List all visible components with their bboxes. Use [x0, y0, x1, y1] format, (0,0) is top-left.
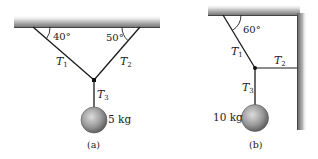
label-t1-b: T1: [231, 45, 243, 59]
angle-arc-60: [232, 15, 241, 30]
ceiling-a: [14, 15, 160, 28]
wall-b: [297, 13, 307, 130]
angle-label-60: 60°: [243, 24, 261, 35]
caption-b: (b): [249, 139, 263, 150]
knot-b: [253, 66, 257, 70]
mass-label-b: 10 kg: [213, 111, 243, 123]
label-t3-b: T3: [242, 81, 254, 95]
angle-label-40: 40°: [53, 31, 71, 42]
angle-arc-40: [47, 27, 51, 39]
figure-b: 60° T1 T2 T3 10 kg (b): [208, 4, 307, 150]
knot-a: [92, 78, 96, 82]
mass-label-a: 5 kg: [108, 113, 131, 125]
caption-a: (a): [87, 139, 100, 150]
mass-ball-b: [242, 105, 269, 132]
tension-diagrams: 40° 50° T1 T2 T3 5 kg (a) 60° T1 T2 T3 1…: [0, 0, 318, 159]
figure-a: 40° 50° T1 T2 T3 5 kg (a): [14, 15, 160, 150]
label-t2-b: T2: [274, 54, 286, 68]
angle-label-50: 50°: [106, 32, 124, 43]
label-t2-a: T2: [120, 55, 132, 69]
ceiling-b: [208, 4, 300, 16]
mass-ball-a: [81, 107, 107, 133]
label-t1-a: T1: [56, 55, 68, 69]
label-t3-a: T3: [97, 88, 109, 102]
